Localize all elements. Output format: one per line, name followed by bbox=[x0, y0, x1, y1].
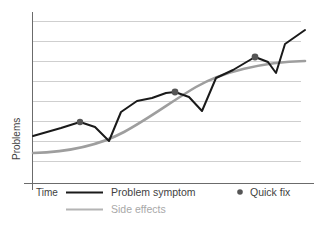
quick-fix-marker bbox=[252, 54, 259, 61]
quick-fix-marker bbox=[172, 89, 179, 96]
x-axis-label: Time bbox=[36, 187, 58, 198]
legend-label-side-effects: Side effects bbox=[111, 203, 166, 215]
legend-swatch-quick-fix bbox=[237, 189, 243, 195]
legend-label-quick-fix: Quick fix bbox=[250, 186, 291, 198]
line-chart: Problems Time Problem symptom Quick fix … bbox=[0, 0, 322, 227]
chart-container: Problems Time Problem symptom Quick fix … bbox=[0, 0, 322, 227]
legend-label-problem-symptom: Problem symptom bbox=[111, 186, 196, 198]
y-axis-label: Problems bbox=[11, 118, 22, 160]
quick-fix-marker bbox=[77, 119, 83, 125]
